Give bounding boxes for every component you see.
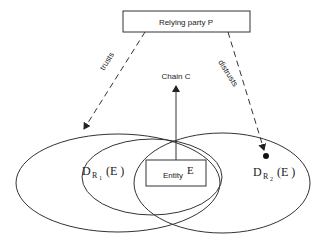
entity-symbol: E — [187, 164, 194, 176]
svg-text:D: D — [253, 165, 262, 179]
svg-text:(E ): (E ) — [277, 165, 295, 179]
trust-diagram: Relying party P trusts distrusts Chain C… — [0, 0, 326, 243]
svg-text:R: R — [263, 172, 269, 181]
domain-r2-label: D R 2 (E ) — [253, 165, 295, 182]
relying-party-box: Relying party P — [123, 11, 250, 32]
svg-text:2: 2 — [270, 176, 273, 182]
trusts-label: trusts — [98, 51, 116, 72]
trusts-arrow — [84, 32, 145, 129]
chain-label: Chain C — [162, 72, 191, 81]
domain-r1-label: D R 1 (E ) — [82, 164, 124, 181]
svg-text:D: D — [82, 164, 91, 178]
entity-box: Entity E — [146, 160, 206, 186]
distrusts-arrow — [228, 32, 264, 150]
svg-text:(E ): (E ) — [106, 164, 124, 178]
svg-text:1: 1 — [99, 175, 102, 181]
distrusts-label: distrusts — [216, 58, 239, 88]
relying-party-label: Relying party P — [159, 18, 213, 27]
point-marker — [263, 153, 269, 159]
entity-label: Entity — [163, 171, 183, 180]
svg-text:R: R — [92, 171, 98, 180]
